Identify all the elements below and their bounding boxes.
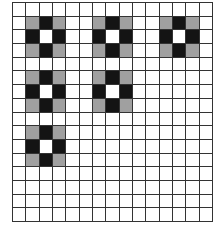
grid-cell xyxy=(133,17,146,31)
grid-cell xyxy=(40,44,53,58)
grid-cell xyxy=(26,195,39,209)
grid-cell xyxy=(40,30,53,44)
grid-cell xyxy=(200,71,213,85)
grid-cell xyxy=(93,44,106,58)
grid-cell xyxy=(80,3,93,17)
grid-cell xyxy=(173,113,186,127)
grid-cell xyxy=(106,195,119,209)
grid-cell xyxy=(13,126,26,140)
grid-cell xyxy=(133,71,146,85)
grid-cell xyxy=(80,44,93,58)
grid-cell xyxy=(186,99,199,113)
grid-cell xyxy=(146,167,159,181)
grid-cell xyxy=(200,140,213,154)
grid-cell xyxy=(200,44,213,58)
grid-cell xyxy=(26,208,39,222)
grid-cell xyxy=(26,3,39,17)
grid-cell xyxy=(53,58,66,72)
grid-cell xyxy=(146,17,159,31)
grid-cell xyxy=(120,113,133,127)
grid-cell xyxy=(53,126,66,140)
grid-cell xyxy=(80,17,93,31)
grid-cell xyxy=(106,154,119,168)
grid-cell xyxy=(120,17,133,31)
grid-cell xyxy=(133,208,146,222)
grid-cell xyxy=(120,167,133,181)
grid-cell xyxy=(66,58,79,72)
grid-cell xyxy=(106,126,119,140)
grid-cell xyxy=(80,85,93,99)
grid-cell xyxy=(186,17,199,31)
grid-cell xyxy=(173,181,186,195)
grid-cell xyxy=(146,85,159,99)
grid-cell xyxy=(120,126,133,140)
grid-cell xyxy=(186,140,199,154)
grid-cell xyxy=(53,154,66,168)
grid-cell xyxy=(66,181,79,195)
grid-cell xyxy=(120,181,133,195)
grid-cell xyxy=(146,3,159,17)
grid-cell xyxy=(93,126,106,140)
grid-cell xyxy=(13,85,26,99)
grid-cell xyxy=(66,71,79,85)
grid-cell xyxy=(200,181,213,195)
grid-cell xyxy=(133,181,146,195)
grid-cell xyxy=(80,71,93,85)
grid-cell xyxy=(66,85,79,99)
grid-cell xyxy=(186,3,199,17)
grid-cell xyxy=(26,126,39,140)
grid-cell xyxy=(53,71,66,85)
grid-cell xyxy=(80,113,93,127)
grid-cell xyxy=(93,17,106,31)
grid-cell xyxy=(200,195,213,209)
grid-cell xyxy=(40,3,53,17)
grid-cell xyxy=(200,3,213,17)
grid-cell xyxy=(186,113,199,127)
grid-cell xyxy=(66,3,79,17)
grid-cell xyxy=(186,85,199,99)
grid-cell xyxy=(13,113,26,127)
grid-cell xyxy=(13,167,26,181)
grid-cell xyxy=(106,181,119,195)
grid-cell xyxy=(146,99,159,113)
grid-cell xyxy=(40,99,53,113)
grid-cell xyxy=(26,154,39,168)
grid-cell xyxy=(200,17,213,31)
grid-cell xyxy=(120,208,133,222)
grid-cell xyxy=(186,58,199,72)
grid-cell xyxy=(40,58,53,72)
grid-cell xyxy=(80,99,93,113)
grid-cell xyxy=(146,181,159,195)
grid-cell xyxy=(160,44,173,58)
grid-cell xyxy=(13,181,26,195)
grid-cell xyxy=(120,85,133,99)
grid-cell xyxy=(26,17,39,31)
grid-cell xyxy=(173,58,186,72)
grid-cell xyxy=(106,113,119,127)
grid-cell xyxy=(40,85,53,99)
grid-cell xyxy=(53,195,66,209)
grid-cell xyxy=(106,167,119,181)
grid-cell xyxy=(120,3,133,17)
grid-cell xyxy=(26,58,39,72)
grid-cell xyxy=(173,17,186,31)
grid-cell xyxy=(120,140,133,154)
grid-cell xyxy=(173,3,186,17)
grid-cell xyxy=(160,140,173,154)
grid-cell xyxy=(40,113,53,127)
grid-cell xyxy=(53,167,66,181)
grid-cell xyxy=(106,140,119,154)
grid-cell xyxy=(160,3,173,17)
grid-cell xyxy=(120,44,133,58)
grid-cell xyxy=(133,140,146,154)
grid-cell xyxy=(173,85,186,99)
grid-cell xyxy=(200,30,213,44)
grid-cell xyxy=(93,208,106,222)
grid-cell xyxy=(66,167,79,181)
grid-cell xyxy=(66,44,79,58)
grid-cell xyxy=(40,181,53,195)
grid-cell xyxy=(26,30,39,44)
grid-cell xyxy=(120,71,133,85)
grid-cell xyxy=(13,44,26,58)
grid-cell xyxy=(13,99,26,113)
